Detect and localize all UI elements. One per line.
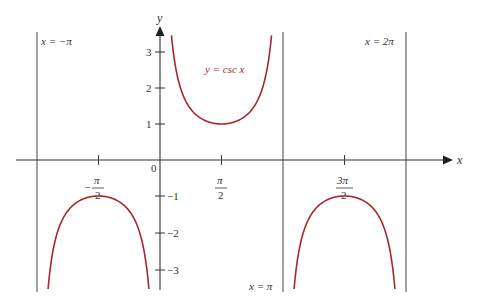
function-label: y = csc x xyxy=(204,63,245,75)
svg-text:π: π xyxy=(94,174,100,186)
svg-text:2: 2 xyxy=(95,189,101,201)
y-tick-label-3: 3 xyxy=(146,46,152,58)
y-axis-label: y xyxy=(156,11,163,25)
asymptote-label-neg-pi: x = −π xyxy=(40,35,72,47)
asymptote-label-pi: x = π xyxy=(248,280,273,292)
svg-text:3π: 3π xyxy=(336,174,349,186)
curve-branch-left xyxy=(48,196,149,289)
y-tick-label-2: 2 xyxy=(146,82,152,94)
x-axis-arrow-icon xyxy=(443,156,453,165)
asymptote-label-2pi: x = 2π xyxy=(364,35,394,47)
curve-branch-right xyxy=(294,196,395,289)
svg-text:2: 2 xyxy=(341,189,347,201)
csc-chart: x 0 − π 2 π 2 3π 2 y xyxy=(0,0,477,308)
svg-text:2: 2 xyxy=(218,189,224,201)
x-axis-label: x xyxy=(456,153,463,167)
curve-branch-middle xyxy=(171,35,271,124)
x-axis: x 0 − π 2 π 2 3π 2 xyxy=(16,153,463,201)
y-tick-label-neg1: −1 xyxy=(167,190,179,202)
svg-text:π: π xyxy=(217,174,223,186)
y-tick-label-neg3: −3 xyxy=(167,264,179,276)
y-tick-label-neg2: −2 xyxy=(167,227,179,239)
svg-text:−: − xyxy=(84,181,90,193)
origin-label: 0 xyxy=(151,162,157,174)
y-tick-label-1: 1 xyxy=(146,118,152,130)
y-axis-arrow-icon xyxy=(156,26,165,36)
x-tick-label-pi-over-2: π 2 xyxy=(215,174,227,201)
